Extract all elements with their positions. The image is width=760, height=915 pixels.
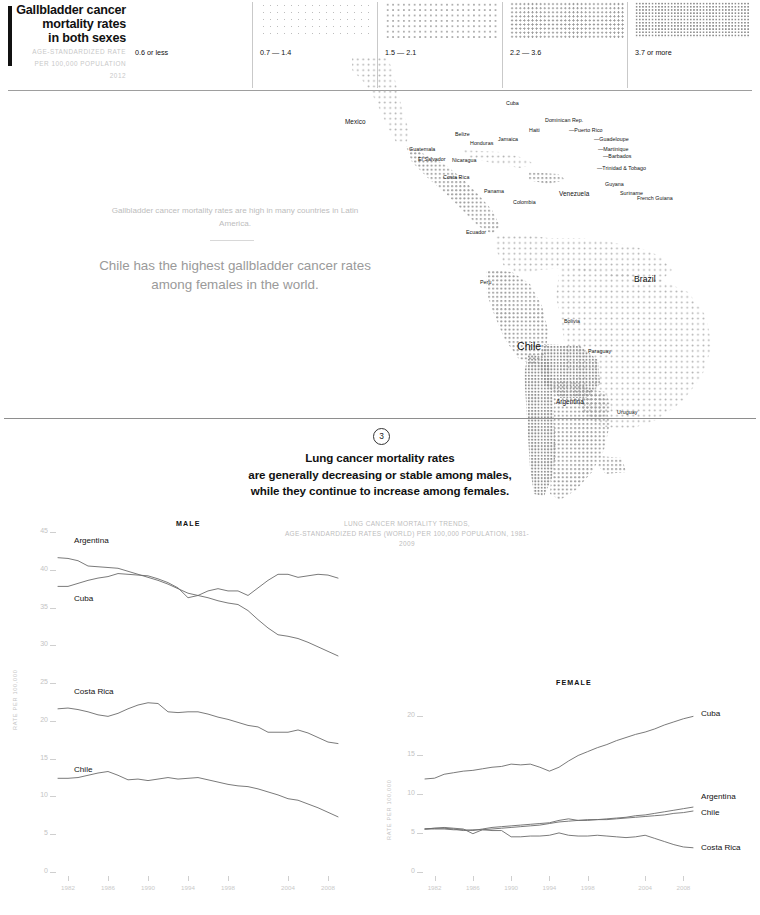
x-tickmark-female-2004 <box>645 876 646 881</box>
y-tickmark-female-0 <box>417 872 423 873</box>
x-tick-female-2004: 2004 <box>629 884 661 891</box>
x-tick-female-1998: 1998 <box>572 884 604 891</box>
y-tickmark-female-20 <box>417 716 423 717</box>
y-tick-female-15: 15 <box>391 750 415 757</box>
x-tick-female-2008: 2008 <box>667 884 699 891</box>
series-label-female-chile: Chile <box>701 808 719 817</box>
infographic-page: Gallbladder cancer mortality rates in bo… <box>0 0 760 915</box>
y-tickmark-female-5 <box>417 833 423 834</box>
x-tickmark-female-2008 <box>683 876 684 881</box>
series-line-costa-rica <box>425 828 693 848</box>
x-tick-female-1986: 1986 <box>457 884 489 891</box>
x-tick-female-1990: 1990 <box>495 884 527 891</box>
x-tick-female-1982: 1982 <box>419 884 451 891</box>
x-tickmark-female-1998 <box>588 876 589 881</box>
panel-title-female: FEMALE <box>556 679 592 687</box>
series-line-argentina <box>425 807 693 830</box>
series-label-female-costa-rica: Costa Rica <box>701 843 741 852</box>
x-tickmark-female-1994 <box>549 876 550 881</box>
y-tickmark-female-15 <box>417 755 423 756</box>
x-tick-female-1994: 1994 <box>533 884 565 891</box>
x-tickmark-female-1986 <box>473 876 474 881</box>
y-tick-female-20: 20 <box>391 711 415 718</box>
y-tick-female-0: 0 <box>391 867 415 874</box>
series-line-cuba <box>425 716 693 779</box>
chart-lines-female <box>0 0 760 915</box>
x-tickmark-female-1982 <box>435 876 436 881</box>
series-label-female-cuba: Cuba <box>701 709 720 718</box>
x-tickmark-female-1990 <box>511 876 512 881</box>
series-label-female-argentina: Argentina <box>701 792 736 801</box>
y-tick-female-10: 10 <box>391 789 415 796</box>
y-tickmark-female-10 <box>417 794 423 795</box>
y-tick-female-5: 5 <box>391 828 415 835</box>
